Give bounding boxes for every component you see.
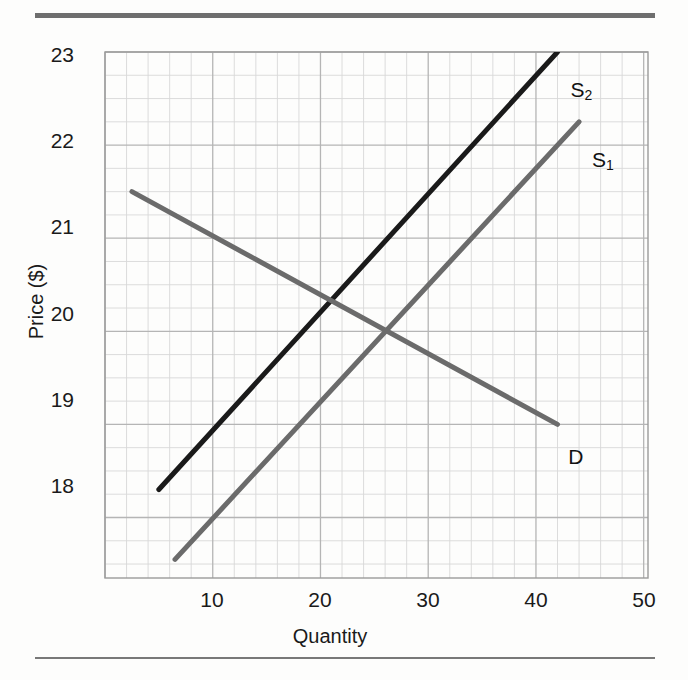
bottom-page-rule bbox=[35, 657, 655, 659]
supply-demand-figure: 23 22 21 20 19 18 10 20 30 40 50 Price (… bbox=[0, 0, 688, 680]
x-axis-title: Quantity bbox=[230, 625, 430, 648]
grid-major bbox=[105, 52, 648, 578]
curve-s1 bbox=[175, 122, 579, 560]
grid-minor bbox=[105, 52, 648, 578]
curve-label-s1: S1 bbox=[592, 148, 614, 173]
x-tick-40: 40 bbox=[506, 588, 566, 612]
x-tick-50: 50 bbox=[614, 588, 674, 612]
y-tick-23: 23 bbox=[28, 43, 74, 67]
curve-label-s2-base: S bbox=[570, 78, 584, 101]
plot-border bbox=[105, 52, 648, 578]
curve-group bbox=[132, 52, 579, 559]
curve-label-s1-sub: 1 bbox=[606, 157, 614, 173]
curve-label-s2: S2 bbox=[570, 78, 592, 103]
curve-label-s1-base: S bbox=[592, 148, 606, 171]
y-tick-19: 19 bbox=[28, 388, 74, 412]
y-tick-18: 18 bbox=[28, 474, 74, 498]
x-tick-30: 30 bbox=[398, 588, 458, 612]
y-tick-21: 21 bbox=[28, 215, 74, 239]
x-tick-20: 20 bbox=[290, 588, 350, 612]
curve-label-d: D bbox=[568, 445, 583, 469]
curve-label-s2-sub: 2 bbox=[584, 87, 592, 103]
y-axis-title: Price ($) bbox=[25, 242, 48, 362]
x-tick-10: 10 bbox=[182, 588, 242, 612]
y-tick-22: 22 bbox=[28, 129, 74, 153]
